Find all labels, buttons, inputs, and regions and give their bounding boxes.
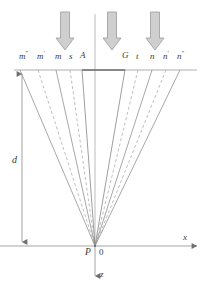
- label-origin: 0: [99, 248, 104, 257]
- incident-arrow-right: [146, 12, 164, 50]
- label-m: m: [55, 52, 62, 61]
- ray-t: [95, 70, 138, 246]
- ray-fan-group: [20, 70, 180, 246]
- label-t: t: [136, 52, 139, 61]
- incident-arrow-left: [56, 12, 74, 50]
- ray-m-prime: [38, 70, 95, 246]
- ray-n-prime: [95, 70, 166, 246]
- label-n: n: [150, 52, 155, 61]
- ray-n-double-prime: [95, 70, 180, 246]
- label-point-P: P: [85, 248, 91, 258]
- label-A: A: [80, 51, 86, 60]
- label-axis-x: x: [183, 233, 187, 242]
- ray-G: [95, 70, 125, 246]
- ray-diagram-figure: m″ m′ m s A G t n n′ n″ d P 0 x z: [0, 0, 202, 293]
- label-s: s: [69, 52, 73, 61]
- label-distance-d: d: [12, 155, 17, 165]
- incident-arrow-center: [103, 12, 121, 50]
- label-n-prime: n′: [163, 52, 169, 61]
- label-m-double-prime: m″: [19, 52, 28, 61]
- label-n-double-prime: n″: [177, 52, 184, 61]
- label-axis-z: z: [100, 270, 104, 279]
- ray-n: [95, 70, 152, 246]
- point-P-marker: [94, 245, 96, 247]
- ray-m: [56, 70, 95, 246]
- incident-arrows-group: [56, 12, 164, 50]
- label-G: G: [122, 51, 129, 60]
- label-m-prime: m′: [37, 52, 45, 61]
- ray-s: [70, 70, 95, 246]
